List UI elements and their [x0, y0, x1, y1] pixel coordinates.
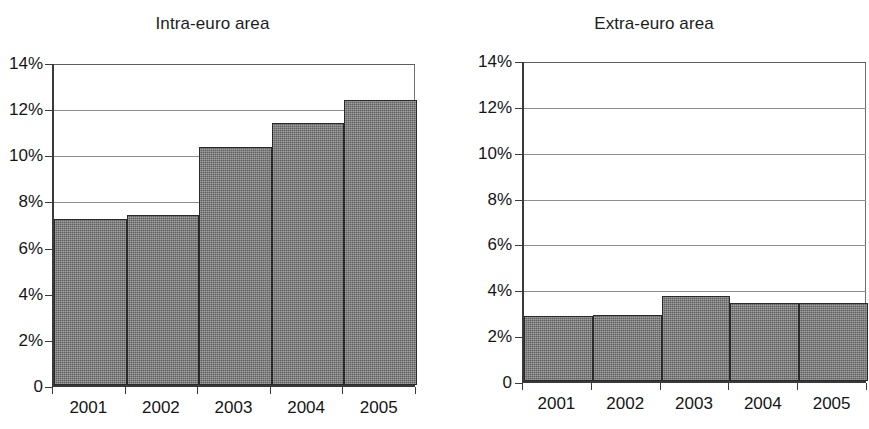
plot-area-left [52, 64, 415, 387]
bar-series-right [524, 62, 866, 381]
x-tick-mark-2001 [52, 387, 53, 394]
y-tick-mark-4 [515, 291, 522, 292]
y-tick-label-12: 12% [0, 100, 43, 120]
y-tick-label-8: 8% [456, 190, 512, 210]
x-tick-label-2002: 2002 [142, 398, 180, 418]
x-tick-mark-end [866, 383, 867, 390]
bar-2003 [199, 147, 272, 385]
y-tick-label-14: 14% [0, 54, 43, 74]
y-tick-mark-10 [515, 154, 522, 155]
x-tick-mark-2004 [270, 387, 271, 394]
y-tick-mark-8 [515, 200, 522, 201]
x-tick-label-2003: 2003 [215, 398, 253, 418]
y-tick-mark-4 [45, 295, 52, 296]
x-tick-mark-2002 [591, 383, 592, 390]
bar-2005 [344, 100, 417, 385]
y-tick-mark-0 [515, 383, 522, 384]
y-tick-mark-12 [515, 108, 522, 109]
bar-2002 [593, 315, 662, 381]
x-tick-label-2004: 2004 [287, 398, 325, 418]
x-tick-mark-end [415, 387, 416, 394]
x-tick-mark-2001 [522, 383, 523, 390]
y-tick-label-2: 2% [456, 327, 512, 347]
y-tick-label-10: 10% [456, 144, 512, 164]
chart-panel-extra-euro-area: Extra-euro area 02%4%6%8%10%12%14% 20012… [435, 0, 869, 429]
x-tick-label-2003: 2003 [675, 394, 713, 414]
x-tick-mark-2004 [728, 383, 729, 390]
x-tick-mark-2003 [660, 383, 661, 390]
x-tick-mark-2005 [342, 387, 343, 394]
y-tick-label-14: 14% [456, 52, 512, 72]
y-tick-mark-6 [515, 245, 522, 246]
x-tick-label-2004: 2004 [744, 394, 782, 414]
x-tick-label-2005: 2005 [360, 398, 398, 418]
y-tick-label-6: 6% [456, 235, 512, 255]
bar-series-left [54, 64, 415, 385]
bar-2004 [272, 123, 345, 385]
y-tick-mark-6 [45, 249, 52, 250]
y-tick-label-8: 8% [0, 192, 43, 212]
bar-2001 [524, 316, 593, 381]
x-tick-mark-2005 [797, 383, 798, 390]
y-tick-mark-2 [45, 341, 52, 342]
x-tick-label-2005: 2005 [813, 394, 851, 414]
x-tick-label-2001: 2001 [69, 398, 107, 418]
y-tick-label-10: 10% [0, 146, 43, 166]
chart-panel-intra-euro-area: Intra-euro area 02%4%6%8%10%12%14% 20012… [0, 0, 435, 429]
y-tick-label-4: 4% [0, 285, 43, 305]
y-tick-label-2: 2% [0, 331, 43, 351]
bar-2001 [54, 219, 127, 385]
bar-2003 [662, 296, 731, 381]
bar-2004 [730, 303, 799, 381]
chart-title-left: Intra-euro area [0, 14, 430, 34]
plot-area-right [522, 62, 866, 383]
y-tick-mark-14 [515, 62, 522, 63]
x-tick-mark-2002 [125, 387, 126, 394]
y-tick-label-4: 4% [456, 281, 512, 301]
y-tick-label-6: 6% [0, 239, 43, 259]
y-tick-mark-0 [45, 387, 52, 388]
x-tick-mark-2003 [197, 387, 198, 394]
x-tick-label-2002: 2002 [606, 394, 644, 414]
bar-2005 [799, 303, 868, 381]
figure-bar-charts: Intra-euro area 02%4%6%8%10%12%14% 20012… [0, 0, 869, 429]
y-tick-label-12: 12% [456, 98, 512, 118]
y-tick-label-0: 0 [0, 377, 43, 397]
y-tick-mark-8 [45, 202, 52, 203]
y-tick-label-0: 0 [456, 373, 512, 393]
y-tick-mark-2 [515, 337, 522, 338]
y-tick-mark-10 [45, 156, 52, 157]
x-tick-label-2001: 2001 [537, 394, 575, 414]
y-tick-mark-12 [45, 110, 52, 111]
chart-title-right: Extra-euro area [437, 14, 869, 34]
y-tick-mark-14 [45, 64, 52, 65]
bar-2002 [127, 215, 200, 385]
